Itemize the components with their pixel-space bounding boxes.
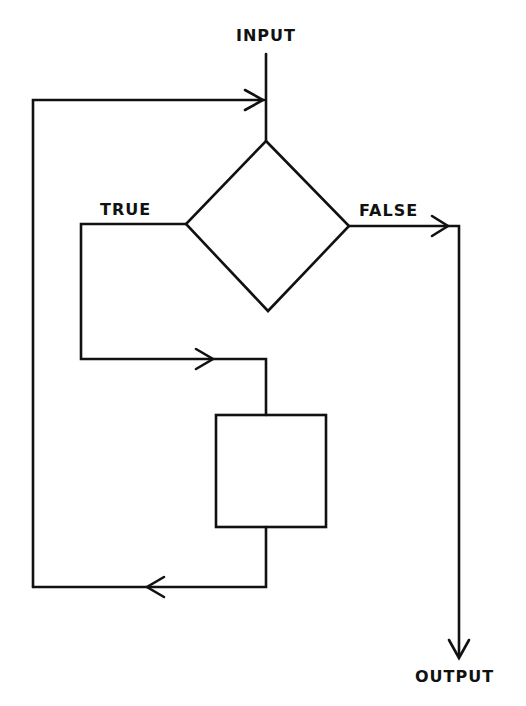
process-box (216, 415, 326, 527)
true-label: TRUE (100, 202, 151, 218)
input-label: INPUT (236, 28, 296, 44)
flowchart-svg (0, 0, 526, 706)
true-branch-connector (81, 224, 266, 415)
flowchart-canvas: INPUT TRUE FALSE OUTPUT (0, 0, 526, 706)
false-label: FALSE (359, 203, 418, 219)
output-label: OUTPUT (415, 669, 494, 685)
process-return-connector (33, 527, 266, 587)
loop-return-top-connector (33, 100, 264, 587)
decision-diamond (186, 141, 349, 311)
false-branch-connector (349, 226, 459, 657)
